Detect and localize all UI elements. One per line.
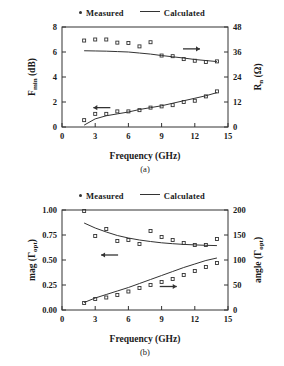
data-point-marker [127,42,130,45]
y-axis-title-left: mag (Γopt) [27,239,39,281]
svg-text:Rn (Ω): Rn (Ω) [253,63,265,90]
x-tick-label: 9 [159,131,163,141]
y-tick-label-left: 2 [53,97,57,107]
data-point-marker [116,41,119,44]
x-tick-label: 15 [224,314,233,324]
plot-frame [62,210,228,310]
data-point-marker [149,230,152,233]
y-tick-label-left: 4 [53,72,58,82]
y-tick-label-right: 0 [233,122,237,132]
svg-text:mag (Γopt): mag (Γopt) [27,239,39,281]
y-tick-label-left: 1.00 [42,205,57,215]
y-tick-label-right: 48 [233,22,242,32]
data-point-marker [116,110,119,113]
panel-caption: (b) [140,347,150,357]
x-tick-label: 6 [126,314,130,324]
left-arrow-to-mag-axis-head [101,252,105,257]
data-point-marker [127,239,130,242]
data-point-marker [83,39,86,42]
series-line [84,223,217,246]
x-axis-title: Frequency (GHz) [110,334,181,345]
y-axis-title-right: Rn (Ω) [253,63,265,90]
y-tick-label-left: 0 [53,122,57,132]
series-line [84,51,217,62]
y-tick-label-right: 24 [233,72,242,82]
y-tick-label-left: 0.25 [42,280,57,290]
data-point-marker [94,38,97,41]
y-tick-label-left: 0.75 [42,230,57,240]
data-point-marker [215,238,218,241]
data-point-marker [127,290,130,293]
data-point-marker [171,104,174,107]
x-tick-label: 3 [93,131,97,141]
plot-area-a: 0369121502468012243648Frequency (GHz)(a)… [0,0,284,183]
data-point-marker [138,243,141,246]
data-point-marker [83,210,86,213]
y-axis-title-left: Fmin (dB) [27,58,39,96]
data-point-marker [149,41,152,44]
panel-caption: (a) [140,164,150,174]
y-tick-label-right: 50 [233,280,242,290]
data-point-marker [160,236,163,239]
data-point-marker [138,287,141,290]
y-tick-label-right: 12 [233,97,242,107]
data-point-marker [105,112,108,115]
data-point-marker [171,239,174,242]
series-line [84,258,217,303]
svg-text:angle (Γopt): angle (Γopt) [253,237,265,283]
right-arrow-to-rn-axis-head [196,46,200,51]
data-point-marker [116,294,119,297]
data-point-marker [204,266,207,269]
svg-text:Fmin (dB): Fmin (dB) [27,58,39,96]
y-tick-label-left: 0.50 [42,255,57,265]
x-tick-label: 9 [159,314,163,324]
x-tick-label: 3 [93,314,97,324]
data-point-marker [171,278,174,281]
data-point-marker [149,284,152,287]
data-point-marker [160,281,163,284]
chart-panel-a: Measured Calculated 03691215024680122436… [0,0,284,183]
y-tick-label-right: 100 [233,255,246,265]
plot-svg-a: 0369121502468012243648Frequency (GHz)(a)… [0,0,284,183]
right-arrow-to-angle-axis-head [173,284,177,289]
y-tick-label-right: 0 [233,305,237,315]
x-tick-label: 0 [60,131,64,141]
data-point-marker [138,45,141,48]
figure-container: Measured Calculated 03691215024680122436… [0,0,284,366]
plot-svg-b: 036912150.000.250.500.751.00050100150200… [0,183,284,366]
data-point-marker [116,240,119,243]
data-point-marker [105,296,108,299]
left-arrow-to-fmin-axis-head [93,105,97,110]
x-tick-label: 0 [60,314,64,324]
data-point-marker [193,270,196,273]
data-point-marker [215,262,218,265]
x-tick-label: 15 [224,131,233,141]
data-point-marker [83,119,86,122]
y-tick-label-right: 36 [233,47,242,57]
data-point-marker [105,38,108,41]
data-point-marker [94,112,97,115]
data-point-marker [105,228,108,231]
x-axis-title: Frequency (GHz) [110,151,181,162]
y-tick-label-left: 8 [53,22,57,32]
data-point-marker [182,274,185,277]
plot-area-b: 036912150.000.250.500.751.00050100150200… [0,183,284,366]
y-tick-label-left: 0.00 [42,305,57,315]
y-tick-label-left: 6 [53,47,57,57]
x-tick-label: 12 [191,314,200,324]
y-tick-label-right: 150 [233,230,246,240]
y-axis-title-right: angle (Γopt) [253,237,265,283]
y-tick-label-right: 200 [233,205,246,215]
data-point-marker [94,235,97,238]
x-tick-label: 12 [191,131,200,141]
plot-frame [62,27,228,127]
chart-panel-b: Measured Calculated 036912150.000.250.50… [0,183,284,366]
x-tick-label: 6 [126,131,130,141]
data-point-marker [193,99,196,102]
